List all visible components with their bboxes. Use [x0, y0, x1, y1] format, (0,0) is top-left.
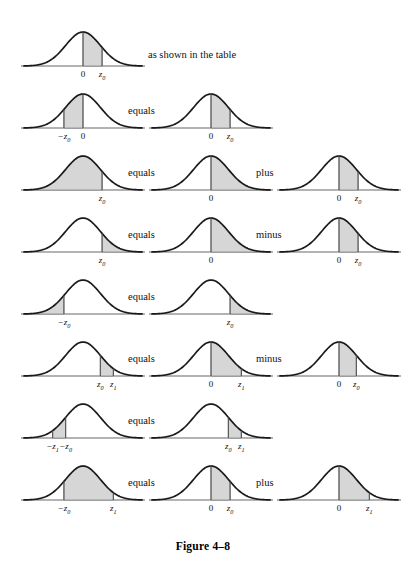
axis-tick-label: z1 [109, 379, 117, 391]
operator-minus: minus [256, 354, 282, 365]
figure-row: −z1−z0z0z1equals [0, 394, 406, 456]
operator-equals: equals [128, 106, 155, 117]
figure-4-8: 0z0as shown in the table−z000z0equalsz00… [0, 0, 406, 572]
figure-row: −z0z10z00z1equalsplus [0, 456, 406, 518]
axis-tick-label: 0 [209, 193, 214, 203]
operator-plus: plus [256, 168, 274, 179]
axis-tick-label: z0 [226, 317, 235, 329]
axis-tick-label: z0 [226, 503, 235, 515]
bell-curve [24, 404, 142, 438]
figure-row: z0z10z10z0equalsminus [0, 332, 406, 394]
bell-curve [152, 404, 270, 438]
axis-tick-label: z0 [226, 131, 235, 143]
normal-curve-panel: z0 [148, 270, 274, 330]
operator-equals: equals [128, 478, 155, 489]
operator-equals: equals [128, 292, 155, 303]
figure-row: 0z0as shown in the table [0, 22, 406, 84]
axis-tick-label: z0 [98, 69, 107, 81]
operator-equals: equals [128, 416, 155, 427]
normal-curve-panel: 0z0 [20, 22, 146, 82]
axis-tick-label: −z0 [58, 317, 72, 329]
axis-tick-label: z0 [96, 379, 105, 391]
axis-tick-label: 0 [337, 255, 342, 265]
operator-minus: minus [256, 230, 282, 241]
normal-curve-panel: 0z0 [276, 146, 402, 206]
bell-curve [152, 280, 270, 314]
operator-equals: equals [128, 230, 155, 241]
axis-tick-label: 0 [209, 379, 214, 389]
axis-tick-label: z1 [109, 503, 117, 515]
axis-tick-label: 0 [81, 69, 86, 79]
table-note-text: as shown in the table [148, 50, 236, 61]
normal-curve-panel: 0z0 [276, 208, 402, 268]
axis-tick-label: z1 [237, 379, 245, 391]
axis-tick-label: 0 [209, 255, 214, 265]
axis-tick-label: −z0 [59, 441, 73, 453]
figure-caption: Figure 4–8 [0, 540, 406, 552]
shaded-area [339, 466, 369, 500]
figure-row: −z000z0equals [0, 84, 406, 146]
axis-tick-label: z0 [98, 193, 107, 205]
axis-tick-label: 0 [209, 131, 214, 141]
axis-tick-label: z0 [352, 379, 361, 391]
axis-tick-label: z0 [354, 193, 363, 205]
axis-tick-label: 0 [81, 131, 86, 141]
operator-equals: equals [128, 168, 155, 179]
operator-plus: plus [256, 478, 274, 489]
axis-tick-label: z0 [224, 441, 233, 453]
bell-curve [24, 218, 142, 252]
axis-tick-label: 0 [337, 379, 342, 389]
normal-curve-panel: 0z0 [148, 84, 274, 144]
axis-tick-label: z0 [98, 255, 107, 267]
axis-tick-label: 0 [209, 503, 214, 513]
normal-curve-panel: z0z1 [148, 394, 274, 454]
shaded-area [64, 466, 113, 500]
axis-tick-label: −z1 [46, 441, 59, 453]
axis-tick-label: 0 [337, 193, 342, 203]
shaded-area [211, 342, 241, 376]
axis-tick-label: −z0 [58, 131, 72, 143]
axis-tick-label: z1 [237, 441, 245, 453]
axis-tick-label: −z0 [58, 503, 72, 515]
figure-row: z000z0equalsminus [0, 208, 406, 270]
bell-curve [24, 280, 142, 314]
figure-row: z000z0equalsplus [0, 146, 406, 208]
axis-tick-label: z0 [354, 255, 363, 267]
axis-tick-label: 0 [337, 503, 342, 513]
normal-curve-panel: 0z0 [276, 332, 402, 392]
figure-row: −z0z0equals [0, 270, 406, 332]
operator-equals: equals [128, 354, 155, 365]
normal-curve-panel: 0z1 [276, 456, 402, 516]
bell-curve [24, 342, 142, 376]
axis-tick-label: z1 [365, 503, 373, 515]
